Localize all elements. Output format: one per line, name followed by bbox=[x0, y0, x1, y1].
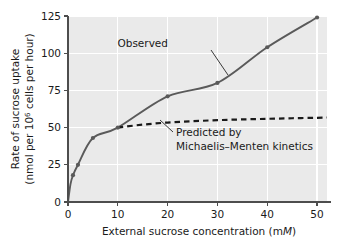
sucrose-uptake-chart: 0255075100125 01020304050 Observed Predi… bbox=[0, 0, 345, 246]
annotation-observed: Observed bbox=[117, 37, 168, 49]
annotation-predicted-line1: Predicted by bbox=[176, 126, 242, 138]
y-axis-title-pre: (nmol per 10 bbox=[23, 117, 35, 185]
y-tick-label: 50 bbox=[48, 121, 61, 133]
figure-container: 0255075100125 01020304050 Observed Predi… bbox=[0, 0, 345, 246]
x-tick-label: 0 bbox=[65, 208, 72, 220]
data-point bbox=[91, 136, 95, 140]
x-axis-title: External sucrose concentration (mM) bbox=[102, 225, 296, 237]
y-tick-label: 25 bbox=[48, 158, 61, 170]
data-point bbox=[76, 163, 80, 167]
x-axis-title-text: External sucrose concentration (m bbox=[102, 225, 283, 237]
y-axis-title-line1: Rate of sucrose uptake bbox=[9, 49, 21, 170]
x-axis-title-tail: ) bbox=[292, 225, 296, 237]
y-tick-label: 100 bbox=[41, 47, 61, 59]
x-tick-label: 30 bbox=[211, 208, 224, 220]
x-tick-label: 50 bbox=[310, 208, 323, 220]
data-point bbox=[215, 81, 219, 85]
y-tick-label: 0 bbox=[54, 196, 61, 208]
data-point bbox=[265, 45, 269, 49]
data-point bbox=[71, 173, 75, 177]
y-axis-title-line2: (nmol per 106 cells per hour) bbox=[23, 33, 35, 184]
data-point bbox=[166, 94, 170, 98]
x-tick-label: 40 bbox=[261, 208, 274, 220]
annotation-predicted-line2: Michaelis–Menten kinetics bbox=[176, 140, 313, 152]
x-tick-labels: 01020304050 bbox=[65, 208, 324, 220]
y-axis-title-post: cells per hour) bbox=[23, 33, 35, 112]
y-tick-label: 75 bbox=[48, 84, 61, 96]
y-tick-label: 125 bbox=[41, 10, 61, 22]
x-tick-label: 10 bbox=[111, 208, 124, 220]
data-point bbox=[315, 15, 319, 19]
x-tick-label: 20 bbox=[161, 208, 174, 220]
y-tick-labels: 0255075100125 bbox=[41, 10, 61, 208]
plot-background bbox=[68, 16, 327, 202]
x-axis-title-unit-italic: M bbox=[283, 225, 292, 237]
data-point bbox=[116, 126, 120, 130]
